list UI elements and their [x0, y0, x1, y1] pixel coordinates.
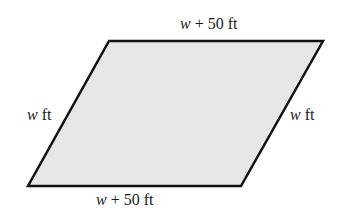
left-label-variable: w	[27, 106, 38, 123]
right-label-variable: w	[290, 106, 301, 123]
right-side-label: w ft	[290, 107, 314, 123]
top-label-variable: w	[180, 15, 191, 32]
left-label-text: ft	[38, 106, 52, 123]
bottom-label-text: + 50 ft	[107, 191, 154, 208]
left-side-label: w ft	[27, 107, 51, 123]
bottom-side-label: w + 50 ft	[96, 192, 153, 208]
parallelogram-diagram: w + 50 ft w + 50 ft w ft w ft	[0, 0, 339, 215]
top-side-label: w + 50 ft	[180, 16, 237, 32]
bottom-label-variable: w	[96, 191, 107, 208]
top-label-text: + 50 ft	[191, 15, 238, 32]
right-label-text: ft	[301, 106, 315, 123]
